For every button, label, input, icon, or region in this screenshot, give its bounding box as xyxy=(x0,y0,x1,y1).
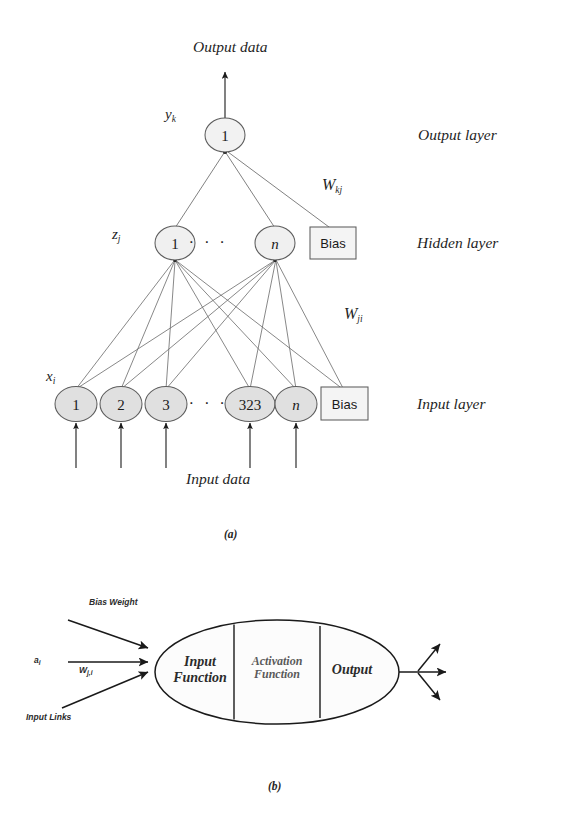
panel-b-output-arrows xyxy=(399,644,446,700)
weight-ji-panel-b-label: Wj,i xyxy=(79,665,92,675)
panel-b-graphics xyxy=(0,0,570,836)
neural-network-figure: 1 1 n Bias 1 2 3 323 xyxy=(0,0,570,836)
input-links-label: Input Links xyxy=(26,712,71,722)
cell-output: Output xyxy=(321,662,383,678)
activation-input-subscript: i xyxy=(39,659,41,666)
caption-b: (b) xyxy=(268,780,281,792)
cell-activation-function: Activation Function xyxy=(234,655,320,682)
bias-weight-label: Bias Weight xyxy=(89,597,138,607)
cell-output-line1: Output xyxy=(321,662,383,678)
cell-activation-function-line1: Activation xyxy=(234,655,320,668)
activation-input-label: ai xyxy=(34,655,41,665)
cell-input-function-line2: Function xyxy=(166,670,234,686)
weight-ji-panel-b-symbol: W xyxy=(79,665,87,675)
cell-input-function-line1: Input xyxy=(166,654,234,670)
cell-input-function: Input Function xyxy=(166,654,234,685)
weight-ji-panel-b-subscript: j,i xyxy=(87,669,92,676)
panel-b-input-arrows xyxy=(62,620,148,708)
cell-activation-function-line2: Function xyxy=(234,668,320,681)
